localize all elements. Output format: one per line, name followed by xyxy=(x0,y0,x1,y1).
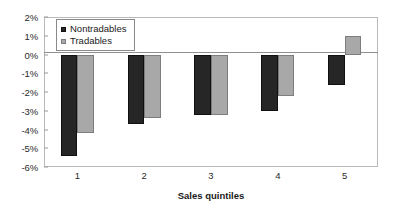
bar-nontradables-q1 xyxy=(61,55,78,156)
y-axis-tick-label: -4% xyxy=(21,124,38,135)
x-axis-tick-label: 4 xyxy=(275,170,280,181)
x-axis-tick-label: 1 xyxy=(75,170,80,181)
legend-label: Tradables xyxy=(70,35,112,47)
bar-tradables-q2 xyxy=(144,55,161,119)
legend-item-nontradables: Nontradables xyxy=(61,23,127,35)
y-axis: 2%1%0%-1%-2%-3%-4%-5%-6% xyxy=(0,17,44,167)
y-axis-tick-label: -5% xyxy=(21,143,38,154)
y-axis-tick-label: -6% xyxy=(21,162,38,173)
legend-item-tradables: Tradables xyxy=(61,35,127,47)
y-axis-tick-label: 2% xyxy=(24,12,38,23)
legend-swatch-icon xyxy=(61,27,66,32)
y-axis-tick-label: 0% xyxy=(24,49,38,60)
bar-tradables-q4 xyxy=(278,55,295,96)
bar-tradables-q3 xyxy=(211,55,228,115)
y-axis-tick-label: -2% xyxy=(21,87,38,98)
legend-swatch-icon xyxy=(61,39,66,44)
bar-nontradables-q4 xyxy=(261,55,278,111)
x-axis: 12345 xyxy=(44,170,378,186)
y-axis-tick-label: 1% xyxy=(24,30,38,41)
bar-nontradables-q3 xyxy=(194,55,211,115)
bar-chart: 2%1%0%-1%-2%-3%-4%-5%-6% 12345 Sales qui… xyxy=(0,0,416,210)
chart-legend: NontradablesTradables xyxy=(56,19,135,51)
bar-nontradables-q5 xyxy=(328,55,345,85)
legend-label: Nontradables xyxy=(70,23,127,35)
bar-nontradables-q2 xyxy=(128,55,145,124)
x-axis-tick-label: 2 xyxy=(142,170,147,181)
bar-tradables-q5 xyxy=(345,36,362,55)
x-axis-tick-label: 3 xyxy=(208,170,213,181)
bar-tradables-q1 xyxy=(77,55,94,134)
x-axis-tick-label: 5 xyxy=(342,170,347,181)
x-axis-title: Sales quintiles xyxy=(44,190,378,201)
y-axis-tick-label: -1% xyxy=(21,68,38,79)
y-axis-tick-label: -3% xyxy=(21,105,38,116)
